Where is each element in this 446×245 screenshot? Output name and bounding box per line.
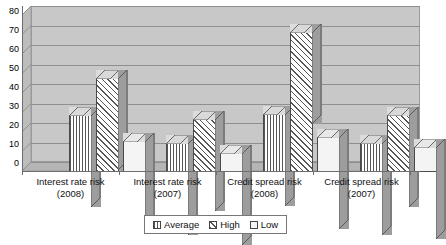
bar-average-credit-spread-risk-2008	[263, 114, 286, 173]
bar-high-credit-spread-risk-2008	[290, 32, 313, 172]
bar-top-face	[166, 135, 189, 144]
bars-layer	[44, 12, 442, 178]
legend-label-average: Average	[164, 219, 199, 230]
legend-item-high[interactable]: High	[209, 219, 240, 230]
x-axis-tick	[313, 171, 314, 175]
bar-high-credit-spread-risk-2007	[387, 115, 410, 172]
category-label-year: (2008)	[216, 188, 313, 200]
category-label-year: (2007)	[313, 188, 410, 200]
bar-low-credit-spread-risk-2007	[414, 147, 437, 172]
bar-top-face	[123, 133, 146, 142]
bar-average-interest-rate-risk-2008	[69, 115, 92, 172]
category-label-name: Credit spread risk	[227, 176, 301, 187]
x-axis-tick	[119, 171, 120, 175]
gridline	[31, 6, 420, 7]
legend-label-high: High	[220, 219, 240, 230]
category-label-name: Credit spread risk	[324, 176, 398, 187]
x-axis-tick	[22, 171, 23, 175]
y-tick-label: 0	[14, 159, 19, 168]
bar-high-interest-rate-risk-2007	[193, 119, 216, 172]
x-axis-line	[22, 171, 420, 172]
y-axis-labels: 80 70 60 50 40 30 20 10 0	[0, 0, 19, 243]
bar-top-face	[387, 107, 410, 116]
bar-top-face	[69, 107, 92, 116]
x-axis-tick	[216, 171, 217, 175]
y-tick-label: 20	[9, 121, 19, 130]
bar-top-face	[96, 70, 119, 79]
bar-high-interest-rate-risk-2008	[96, 78, 119, 172]
category-label: Credit spread risk (2007)	[313, 176, 410, 200]
bar-low-credit-spread-risk-2008	[317, 137, 340, 172]
bar-average-credit-spread-risk-2007	[360, 143, 383, 172]
plot-area	[22, 6, 420, 171]
swatch-high-icon	[209, 221, 217, 229]
y-tick-label: 50	[9, 64, 19, 73]
y-tick-label: 60	[9, 45, 19, 54]
bar-low-interest-rate-risk-2007	[220, 153, 243, 173]
swatch-average-icon	[153, 221, 161, 229]
bar-side-face	[312, 24, 322, 124]
x-axis-tick	[410, 171, 411, 175]
y-tick-label: 10	[9, 140, 19, 149]
legend-item-average[interactable]: Average	[153, 219, 199, 230]
category-label-name: Interest rate risk	[133, 176, 201, 187]
category-label-year: (2008)	[22, 188, 119, 200]
x-axis-category-labels: Interest rate risk (2008) Interest rate …	[22, 176, 420, 210]
legend-item-low[interactable]: Low	[250, 219, 278, 230]
y-tick-label: 80	[9, 7, 19, 16]
bar-top-face	[263, 106, 286, 115]
bar-side-face	[436, 139, 446, 239]
bar-top-face	[414, 139, 437, 148]
bar-low-interest-rate-risk-2008	[123, 141, 146, 172]
y-tick-label: 40	[9, 83, 19, 92]
bar-top-face	[220, 145, 243, 154]
category-label-name: Interest rate risk	[36, 176, 104, 187]
y-axis-line	[22, 6, 23, 172]
bar-average-interest-rate-risk-2007	[166, 143, 189, 172]
category-label: Interest rate risk (2008)	[22, 176, 119, 200]
category-label: Interest rate risk (2007)	[119, 176, 216, 200]
category-label-year: (2007)	[119, 188, 216, 200]
category-label: Credit spread risk (2008)	[216, 176, 313, 200]
bar-top-face	[290, 24, 313, 33]
bar-top-face	[317, 129, 340, 138]
bar-top-face	[360, 135, 383, 144]
chart-legend: Average High Low	[144, 215, 287, 234]
swatch-low-icon	[250, 221, 258, 229]
y-tick-label: 70	[9, 26, 19, 35]
legend-label-low: Low	[261, 219, 278, 230]
bar-top-face	[193, 111, 216, 120]
y-tick-label: 30	[9, 102, 19, 111]
